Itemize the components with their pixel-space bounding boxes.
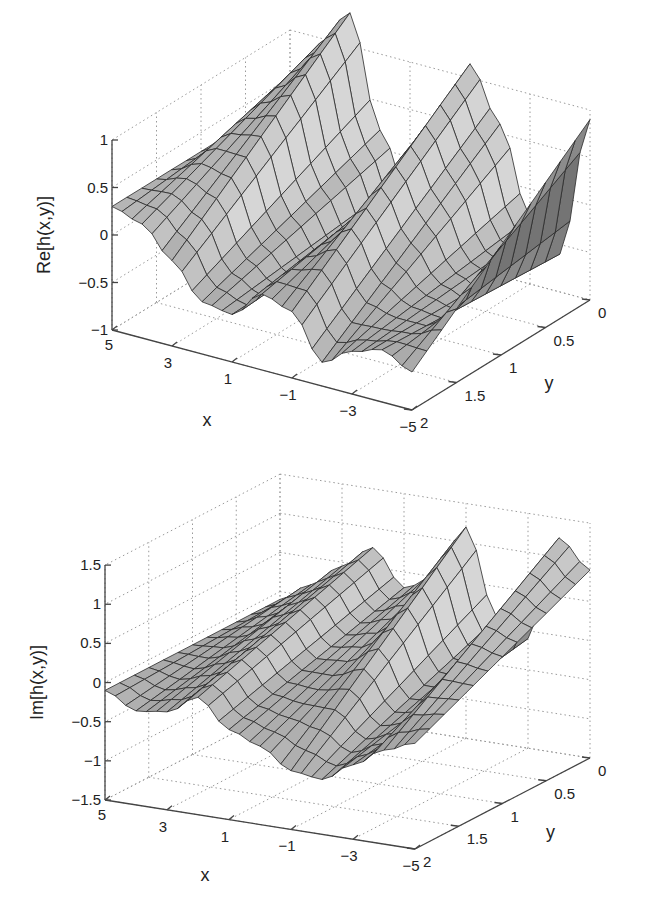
x-axis-label: x (201, 865, 210, 885)
surface-mesh (112, 13, 590, 372)
x-tick-label: −1 (278, 837, 295, 854)
z-tick-label: 1.5 (80, 556, 101, 573)
x-tick-label: 5 (98, 806, 106, 823)
y-tick-label: 0 (598, 762, 606, 779)
x-axis-label: x (203, 410, 212, 430)
y-tick-label: 2 (420, 414, 428, 431)
z-tick-label: 0.5 (80, 634, 101, 651)
z-tick-label: −1.5 (71, 791, 101, 808)
z-tick-label: −1 (84, 752, 101, 769)
x-tick-label: −1 (279, 386, 296, 403)
z-tick-label: 0 (100, 226, 108, 243)
z-tick-label: 1 (93, 595, 101, 612)
z-tick-label: 0 (93, 674, 101, 691)
x-tick-label: 3 (164, 354, 172, 371)
y-tick-label: 0.5 (554, 332, 575, 349)
x-tick-label: 1 (224, 370, 232, 387)
z-tick-label: 0.5 (87, 179, 108, 196)
x-tick-label: 1 (221, 828, 229, 845)
y-tick-label: 0.5 (554, 785, 575, 802)
z-axis-label: Im[h(x,y)] (27, 645, 47, 720)
re-h-surface-svg: −1−0.500.51531−1−3−500.511.52xyRe[h(x,y)… (0, 0, 646, 459)
z-tick-label: −0.5 (78, 274, 108, 291)
im-h-surface-svg: −1.5−1−0.500.511.5531−1−3−500.511.52xyIm… (0, 459, 646, 918)
z-tick-label: 1 (100, 131, 108, 148)
z-axis-label: Re[h(x,y)] (34, 196, 54, 274)
x-tick-label: 5 (105, 336, 113, 353)
y-tick-label: 2 (423, 853, 431, 870)
y-tick-label: 1.5 (465, 387, 486, 404)
z-tick-label: −0.5 (71, 713, 101, 730)
x-tick-label: 3 (159, 818, 167, 835)
x-tick-label: −3 (340, 847, 357, 864)
x-tick-label: −5 (402, 857, 419, 874)
y-tick-label: 1.5 (467, 830, 488, 847)
y-tick-label: 0 (598, 304, 606, 321)
x-tick-label: −5 (399, 418, 416, 435)
x-tick-label: −3 (339, 402, 356, 419)
y-axis-label: y (545, 373, 554, 393)
y-tick-label: 1 (509, 359, 517, 376)
im-h-surface-plot: −1.5−1−0.500.511.5531−1−3−500.511.52xyIm… (0, 459, 646, 918)
re-h-surface-plot: −1−0.500.51531−1−3−500.511.52xyRe[h(x,y)… (0, 0, 646, 459)
y-axis-label: y (546, 822, 555, 842)
y-tick-label: 1 (511, 808, 519, 825)
surface-mesh (105, 527, 590, 780)
